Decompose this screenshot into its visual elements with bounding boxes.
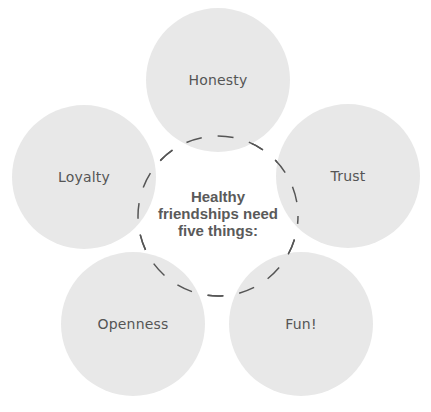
center-heading: Healthy friendships need five things: bbox=[137, 188, 299, 239]
center-line-3: five things: bbox=[137, 222, 299, 239]
center-line-2: friendships need bbox=[137, 205, 299, 222]
center-line-1: Healthy bbox=[137, 188, 299, 205]
